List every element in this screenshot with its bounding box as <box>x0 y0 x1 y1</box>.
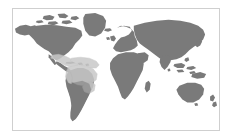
land-sri-lanka <box>168 69 171 72</box>
world-map-figure <box>0 0 232 140</box>
map-frame <box>12 8 220 131</box>
world-map-svg <box>13 9 219 130</box>
